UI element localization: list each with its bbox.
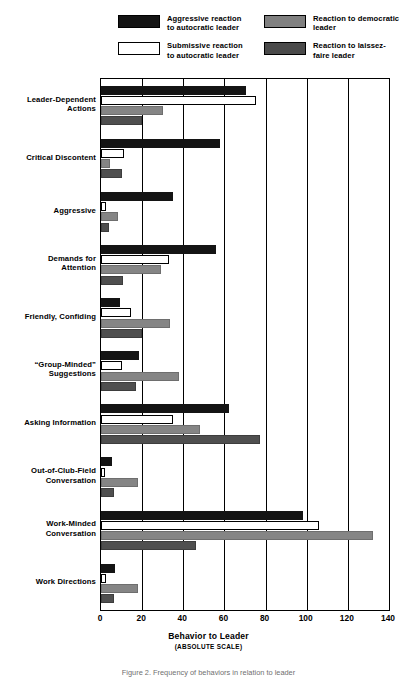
- bar-group: [101, 351, 389, 391]
- bar: [101, 276, 123, 285]
- bar-group: [101, 192, 389, 232]
- bar-group: [101, 564, 389, 604]
- bar: [101, 192, 173, 201]
- bar: [101, 382, 136, 391]
- category-label: “Group-Minded” Suggestions: [0, 360, 96, 379]
- category-label: Demands for Attention: [0, 254, 96, 273]
- bar: [101, 372, 179, 381]
- bar: [101, 584, 138, 593]
- bar-group: [101, 86, 389, 126]
- bar: [101, 329, 142, 338]
- bar: [101, 361, 122, 370]
- legend-label: Reaction to laissez- faire leader: [313, 41, 386, 59]
- x-tick-label-140: 140: [381, 613, 395, 623]
- bar-group: [101, 245, 389, 285]
- gridline-140: [389, 79, 390, 610]
- bar: [101, 435, 260, 444]
- bar: [101, 245, 216, 254]
- x-tick-label-40: 40: [178, 613, 187, 623]
- legend-entry-aggressive-autocratic: Aggressive reaction to autocratic leader: [118, 14, 243, 32]
- bar: [101, 457, 112, 466]
- bar: [101, 106, 163, 115]
- bar: [101, 319, 170, 328]
- x-axis-tick-labels: 020406080100120140: [100, 613, 388, 625]
- bar: [101, 255, 169, 264]
- category-label: Leader-Dependent Actions: [0, 95, 96, 114]
- x-tick-label-100: 100: [299, 613, 313, 623]
- bar: [101, 468, 105, 477]
- bar: [101, 574, 106, 583]
- category-label: Aggressive: [0, 206, 96, 215]
- bar: [101, 265, 161, 274]
- bar: [101, 149, 124, 158]
- bar: [101, 488, 114, 497]
- legend-swatch-white-icon: [118, 42, 160, 55]
- bar: [101, 478, 138, 487]
- legend-entry-submissive-autocratic: Submissive reaction to autocratic leader: [118, 41, 243, 59]
- legend-entry-laissez-faire: Reaction to laissez- faire leader: [264, 41, 399, 59]
- bar: [101, 159, 110, 168]
- bar: [101, 594, 114, 603]
- bar: [101, 139, 220, 148]
- bar: [101, 96, 256, 105]
- x-axis-subtitle: (ABSOLUTE SCALE): [0, 643, 417, 650]
- bar-group: [101, 139, 389, 179]
- bar: [101, 415, 173, 424]
- category-label: Critical Discontent: [0, 153, 96, 162]
- x-tick-label-80: 80: [260, 613, 269, 623]
- bar: [101, 169, 122, 178]
- category-label: Asking Information: [0, 418, 96, 427]
- bar: [101, 541, 196, 550]
- bar-group: [101, 298, 389, 338]
- bar: [101, 511, 303, 520]
- legend-label: Submissive reaction to autocratic leader: [167, 41, 243, 59]
- bar: [101, 425, 200, 434]
- bar: [101, 308, 131, 317]
- x-axis-title: Behavior to Leader: [0, 631, 417, 641]
- legend-column-right: Reaction to democratic leader Reaction t…: [264, 14, 399, 69]
- bar: [101, 351, 139, 360]
- legend-swatch-dark-gray-icon: [264, 42, 306, 55]
- bar-group: [101, 457, 389, 497]
- bar: [101, 116, 142, 125]
- legend-swatch-black-icon: [118, 15, 160, 28]
- bar: [101, 212, 118, 221]
- bar-groups: [101, 79, 389, 610]
- legend-swatch-mid-gray-icon: [264, 15, 306, 28]
- bar: [101, 298, 120, 307]
- legend-column-left: Aggressive reaction to autocratic leader…: [118, 14, 243, 69]
- category-label: Out-of-Club-Field Conversation: [0, 466, 96, 485]
- legend-label: Aggressive reaction to autocratic leader: [167, 14, 242, 32]
- plot-area: [100, 78, 390, 611]
- figure-caption: Figure 2. Frequency of behaviors in rela…: [0, 668, 417, 680]
- legend-entry-democratic: Reaction to democratic leader: [264, 14, 399, 32]
- category-label: Work-Minded Conversation: [0, 519, 96, 538]
- category-label: Friendly, Confiding: [0, 312, 96, 321]
- x-tick-label-120: 120: [340, 613, 354, 623]
- bar-group: [101, 404, 389, 444]
- x-tick-label-20: 20: [136, 613, 145, 623]
- category-axis-labels: Leader-Dependent ActionsCritical Discont…: [0, 78, 96, 609]
- legend-label: Reaction to democratic leader: [313, 14, 399, 32]
- bar: [101, 531, 373, 540]
- bar: [101, 521, 319, 530]
- bar: [101, 564, 115, 573]
- bar-group: [101, 511, 389, 551]
- bar: [101, 202, 106, 211]
- bar: [101, 86, 246, 95]
- bar: [101, 404, 229, 413]
- category-label: Work Directions: [0, 577, 96, 586]
- bar: [101, 223, 109, 232]
- x-tick-label-0: 0: [98, 613, 103, 623]
- x-tick-label-60: 60: [219, 613, 228, 623]
- chart-legend: Aggressive reaction to autocratic leader…: [0, 14, 417, 76]
